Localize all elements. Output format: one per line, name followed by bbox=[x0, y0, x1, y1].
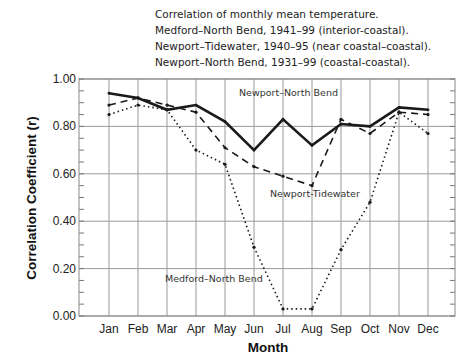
data-point-solid bbox=[369, 125, 372, 128]
x-tick-label: May bbox=[214, 322, 237, 336]
y-tick-label: 0.60 bbox=[53, 167, 77, 181]
data-point-dashed bbox=[281, 175, 284, 178]
y-axis-ticks: 0.000.200.400.600.801.00 bbox=[53, 72, 77, 323]
data-point-solid bbox=[282, 118, 285, 121]
x-tick-label: Feb bbox=[128, 322, 149, 336]
data-point-solid bbox=[427, 108, 430, 111]
data-point-dashed bbox=[339, 118, 342, 121]
data-point-solid bbox=[108, 92, 111, 95]
x-tick-label: Oct bbox=[361, 322, 380, 336]
y-axis-title: Correlation Coefficient (r) bbox=[24, 116, 39, 280]
data-point-dotted bbox=[426, 132, 429, 135]
data-point-dashed bbox=[194, 111, 197, 114]
data-point-dotted bbox=[339, 248, 342, 251]
data-point-dotted bbox=[165, 108, 168, 111]
label-medford-north-bend: Medford–North Bend bbox=[165, 273, 263, 284]
x-axis-ticks: JanFebMarAprMayJunJulAugSepOctNovDec bbox=[99, 322, 438, 336]
data-point-dotted bbox=[397, 111, 400, 114]
data-point-dotted bbox=[136, 103, 139, 106]
data-point-solid bbox=[224, 120, 227, 123]
x-tick-label: Mar bbox=[157, 322, 178, 336]
data-point-solid bbox=[398, 106, 401, 109]
data-point-dashed bbox=[165, 103, 168, 106]
data-point-solid bbox=[195, 104, 198, 107]
y-tick-label: 0.20 bbox=[53, 262, 77, 276]
data-point-dotted bbox=[281, 307, 284, 310]
data-point-solid bbox=[253, 149, 256, 152]
x-tick-label: Nov bbox=[388, 322, 409, 336]
data-point-dashed bbox=[426, 113, 429, 116]
data-point-dashed bbox=[310, 184, 313, 187]
x-tick-label: Jan bbox=[99, 322, 118, 336]
x-tick-label: Aug bbox=[301, 322, 322, 336]
data-point-dotted bbox=[310, 307, 313, 310]
data-point-solid bbox=[340, 123, 343, 126]
data-point-dashed bbox=[223, 146, 226, 149]
data-point-dashed bbox=[368, 132, 371, 135]
x-axis-title: Month bbox=[248, 340, 288, 355]
data-point-dashed bbox=[136, 96, 139, 99]
series-line-dashed bbox=[109, 98, 428, 186]
y-tick-label: 0.80 bbox=[53, 119, 77, 133]
data-point-dotted bbox=[194, 149, 197, 152]
data-point-dotted bbox=[107, 113, 110, 116]
data-point-dotted bbox=[223, 163, 226, 166]
x-tick-label: Jul bbox=[275, 322, 290, 336]
series-line-solid bbox=[109, 93, 428, 150]
x-tick-label: Dec bbox=[417, 322, 438, 336]
x-tick-label: Sep bbox=[330, 322, 352, 336]
data-point-dotted bbox=[252, 246, 255, 249]
y-tick-label: 0.00 bbox=[53, 309, 77, 323]
series-lines bbox=[107, 92, 429, 311]
data-point-dashed bbox=[107, 103, 110, 106]
data-point-dotted bbox=[368, 201, 371, 204]
label-newport-north-bend: Newport–North Bend bbox=[239, 87, 338, 98]
x-tick-label: Apr bbox=[187, 322, 206, 336]
line-chart: 0.000.200.400.600.801.00 JanFebMarAprMay… bbox=[0, 0, 473, 358]
data-point-dashed bbox=[252, 165, 255, 168]
y-tick-label: 1.00 bbox=[53, 72, 77, 86]
y-tick-label: 0.40 bbox=[53, 214, 77, 228]
x-tick-label: Jun bbox=[244, 322, 263, 336]
data-point-solid bbox=[311, 144, 314, 147]
label-newport-tidewater: Newport-Tidewater bbox=[270, 188, 360, 199]
